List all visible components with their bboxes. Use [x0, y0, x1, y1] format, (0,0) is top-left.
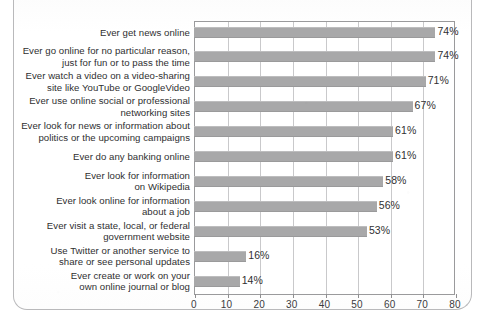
x-tick-60	[391, 294, 392, 298]
bar[interactable]	[194, 51, 435, 62]
category-label: Ever watch a video on a video-sharingsit…	[12, 70, 190, 93]
bar[interactable]	[194, 101, 413, 112]
category-label-line: networking sites	[12, 107, 190, 119]
bar-value-label: 61%	[395, 124, 416, 136]
bar-value-label: 14%	[242, 274, 263, 286]
bar-value-label: 71%	[428, 74, 449, 86]
bar-value-label: 74%	[437, 25, 458, 37]
bar-row[interactable]: Ever get news online74%	[0, 21, 486, 46]
bar-value-label: 61%	[395, 149, 416, 161]
category-label-line: Ever look for news or information about	[12, 120, 190, 132]
x-tick-0	[195, 294, 196, 298]
category-label-line: own online journal or blog	[12, 281, 190, 293]
category-label: Ever create or work on yourown online jo…	[12, 270, 190, 293]
bar-row[interactable]: Ever look for news or information aboutp…	[0, 120, 486, 145]
x-tick-70	[423, 294, 424, 298]
bar[interactable]	[194, 251, 246, 262]
bar[interactable]	[194, 27, 435, 38]
category-label-line: politics or the upcoming campaigns	[12, 132, 190, 144]
bar-value-label: 16%	[248, 249, 269, 261]
bar[interactable]	[194, 226, 367, 237]
x-tick-20	[260, 294, 261, 298]
bar-row[interactable]: Ever do any banking online61%	[0, 145, 486, 170]
x-tick-10	[228, 294, 229, 298]
x-tick-label-60: 60	[377, 299, 403, 310]
category-label: Ever look for informationon Wikipedia	[12, 170, 190, 193]
x-tick-label-70: 70	[409, 299, 435, 310]
category-label-line: share or see personal updates	[12, 256, 190, 268]
category-label-line: Ever look for information	[12, 170, 190, 182]
category-label: Ever get news online	[12, 27, 190, 39]
category-label-line: about a job	[12, 206, 190, 218]
category-label-line: Ever get news online	[12, 27, 190, 39]
category-label-line: government website	[12, 231, 190, 243]
x-tick-label-0: 0	[181, 299, 207, 310]
bar-row[interactable]: Use Twitter or another service toshare o…	[0, 245, 486, 270]
bar[interactable]	[194, 126, 393, 137]
x-tick-label-10: 10	[214, 299, 240, 310]
bar[interactable]	[194, 76, 426, 87]
category-label-line: Ever use online social or professional	[12, 95, 190, 107]
bar-row[interactable]: Ever use online social or professionalne…	[0, 95, 486, 120]
category-label: Ever look for news or information aboutp…	[12, 120, 190, 143]
bar-value-label: 56%	[379, 199, 400, 211]
bar[interactable]	[194, 201, 377, 212]
bar-row[interactable]: Ever look online for informationabout a …	[0, 195, 486, 220]
category-label-line: Ever go online for no particular reason,	[12, 45, 190, 57]
x-tick-label-20: 20	[246, 299, 272, 310]
category-label-line: Use Twitter or another service to	[12, 245, 190, 257]
category-label-line: Ever visit a state, local, or federal	[12, 220, 190, 232]
category-label: Use Twitter or another service toshare o…	[12, 245, 190, 268]
x-tick-30	[293, 294, 294, 298]
bar-row[interactable]: Ever look for informationon Wikipedia58%	[0, 170, 486, 195]
category-label: Ever look online for informationabout a …	[12, 195, 190, 218]
x-tick-50	[358, 294, 359, 298]
bar[interactable]	[194, 276, 240, 287]
bar-value-label: 58%	[385, 174, 406, 186]
bar-row[interactable]: Ever watch a video on a video-sharingsit…	[0, 70, 486, 95]
category-label: Ever use online social or professionalne…	[12, 95, 190, 118]
bar-row[interactable]: Ever visit a state, local, or federalgov…	[0, 220, 486, 245]
x-tick-80	[456, 294, 457, 298]
bar[interactable]	[194, 151, 393, 162]
bar[interactable]	[194, 176, 383, 187]
bar-row[interactable]: Ever create or work on yourown online jo…	[0, 270, 486, 295]
category-label-line: Ever create or work on your	[12, 270, 190, 282]
x-tick-label-40: 40	[312, 299, 338, 310]
category-label-line: Ever do any banking online	[12, 151, 190, 163]
scanned-page: 01020304050607080Ever get news online74%…	[0, 0, 486, 332]
category-label: Ever visit a state, local, or federalgov…	[12, 220, 190, 243]
category-label: Ever go online for no particular reason,…	[12, 45, 190, 68]
category-label-line: on Wikipedia	[12, 181, 190, 193]
bar-chart: 01020304050607080Ever get news online74%…	[0, 0, 486, 332]
bar-value-label: 74%	[437, 49, 458, 61]
category-label-line: just for fun or to pass the time	[12, 57, 190, 69]
x-tick-label-80: 80	[442, 299, 468, 310]
category-label-line: site like YouTube or GoogleVideo	[12, 82, 190, 94]
bar-value-label: 53%	[369, 224, 390, 236]
category-label-line: Ever watch a video on a video-sharing	[12, 70, 190, 82]
category-label: Ever do any banking online	[12, 151, 190, 163]
x-tick-label-30: 30	[279, 299, 305, 310]
bar-value-label: 67%	[415, 99, 436, 111]
x-tick-label-50: 50	[344, 299, 370, 310]
bar-row[interactable]: Ever go online for no particular reason,…	[0, 45, 486, 70]
category-label-line: Ever look online for information	[12, 195, 190, 207]
x-tick-40	[326, 294, 327, 298]
